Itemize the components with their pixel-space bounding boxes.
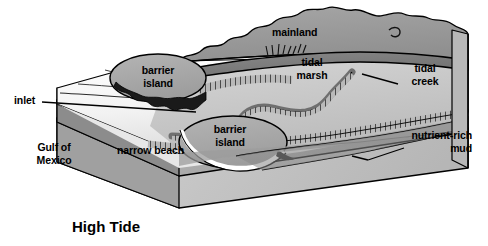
label-narrow-beach: narrow beach	[117, 145, 184, 156]
label-barrier-island-upper-line1: barrier	[126, 65, 190, 76]
figure-caption: High Tide	[72, 218, 140, 235]
label-tidal-creek-line2: creek	[398, 76, 452, 87]
label-tidal-marsh-line2: marsh	[283, 70, 341, 81]
label-nutrient-rich-mud-line1: nutrient-rich	[380, 130, 472, 141]
label-gulf-of-mexico-line2: Mexico	[22, 155, 86, 166]
label-tidal-creek-line1: tidal	[398, 63, 452, 74]
label-nutrient-rich-mud-line2: mud	[380, 143, 472, 154]
label-tidal-marsh-line1: tidal	[283, 57, 341, 68]
label-barrier-island-upper-line2: island	[126, 78, 190, 89]
label-gulf-of-mexico-line1: Gulf of	[22, 142, 86, 153]
label-barrier-island-lower-line1: barrier	[198, 124, 262, 135]
figure-root: inlet Gulf of Mexico barrier island barr…	[0, 0, 488, 246]
label-mainland: mainland	[272, 27, 317, 38]
label-barrier-island-lower-line2: island	[198, 137, 262, 148]
label-inlet: inlet	[14, 95, 35, 106]
